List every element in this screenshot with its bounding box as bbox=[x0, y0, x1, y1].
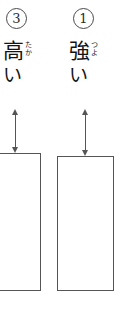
kanji-with-furigana-2: 強 つ よ bbox=[69, 40, 113, 64]
kanji-char-1: 高 bbox=[3, 40, 24, 62]
furigana-char-2b: よ bbox=[91, 49, 98, 57]
item-index-badge-1: 3 bbox=[6, 8, 27, 29]
furigana-group-2: つ よ bbox=[91, 41, 98, 57]
diagram-canvas: 3 高 た か い 1 強 つ よ い bbox=[0, 0, 131, 330]
bar-rectangle-1 bbox=[0, 153, 41, 291]
kanji-char-2: 強 bbox=[69, 40, 90, 62]
item-index-badge-2: 1 bbox=[73, 8, 94, 29]
arrow-shaft-1 bbox=[15, 113, 16, 149]
furigana-char-1a: た bbox=[25, 41, 32, 49]
arrow-shaft-2 bbox=[85, 113, 86, 152]
furigana-char-1b: か bbox=[25, 49, 32, 57]
furigana-group-1: た か bbox=[25, 41, 32, 57]
bar-rectangle-2 bbox=[57, 156, 114, 291]
word-label-1: 高 た か い bbox=[3, 40, 47, 85]
okurigana-char-2: い bbox=[69, 65, 113, 85]
furigana-char-2a: つ bbox=[91, 41, 98, 49]
double-arrow-icon-2 bbox=[80, 109, 91, 156]
word-label-2: 強 つ よ い bbox=[69, 40, 113, 85]
double-arrow-icon-1 bbox=[10, 109, 21, 153]
kanji-with-furigana-1: 高 た か bbox=[3, 40, 47, 64]
okurigana-char-1: い bbox=[3, 65, 47, 85]
